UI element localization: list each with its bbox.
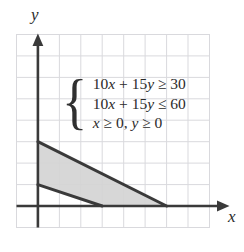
inequality-line-2: 10x + 15y ≤ 60 bbox=[93, 94, 186, 114]
inequality-line-3: x ≥ 0, y ≥ 0 bbox=[93, 113, 186, 133]
x-axis-label: x bbox=[228, 208, 236, 225]
inequality-line-1: 10x + 15y ≥ 30 bbox=[93, 74, 186, 94]
y-axis-label: y bbox=[31, 6, 39, 23]
system-of-inequalities: { 10x + 15y ≥ 30 10x + 15y ≤ 60 x ≥ 0, y… bbox=[62, 72, 186, 133]
inequality-graph-figure: y x { 10x + 15y ≥ 30 10x + 15y ≤ 60 x ≥ … bbox=[0, 0, 244, 252]
left-curly-brace-icon: { bbox=[62, 73, 87, 133]
inequality-list: 10x + 15y ≥ 30 10x + 15y ≤ 60 x ≥ 0, y ≥… bbox=[93, 72, 186, 133]
